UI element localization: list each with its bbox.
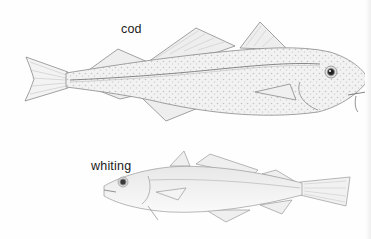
cod-label: cod (121, 22, 142, 36)
page-edge-shadow (365, 0, 371, 239)
fish-illustration: cod whiting (0, 0, 371, 239)
cod-fish (25, 22, 368, 121)
whiting-fish (104, 151, 350, 222)
fish-drawings (0, 0, 371, 239)
whiting-label: whiting (91, 159, 131, 173)
